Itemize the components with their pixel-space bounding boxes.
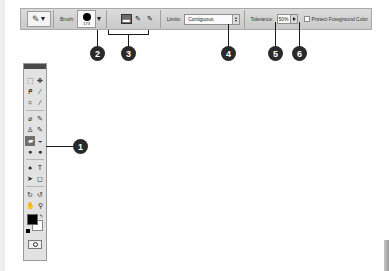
tool-preset-picker[interactable]: ✎ (27, 11, 51, 27)
callout-leader-1 (46, 146, 74, 147)
limits-label: Limits: (167, 16, 181, 22)
tolerance-label: Tolerance: (250, 16, 273, 22)
callout-3: 3 (121, 46, 136, 61)
tool-row: ↻ ↺ (24, 189, 46, 200)
brush-picker[interactable]: 173 (77, 10, 95, 28)
brush-size: 173 (83, 22, 90, 26)
brush-label: Brush: (60, 16, 74, 22)
tool-row: ♠ T (24, 162, 46, 173)
callout-leader-4 (228, 24, 229, 47)
sampling-once-button[interactable]: ✎ (133, 14, 144, 24)
background-eraser-tool-icon[interactable]: ▰ (25, 136, 35, 146)
sampling-background-swatch-button[interactable]: ✎ (145, 14, 156, 24)
sampling-continuous-button[interactable]: ▬ (121, 14, 132, 24)
divider (160, 10, 161, 28)
quick-mask-button[interactable] (28, 240, 42, 249)
limits-value: Contiguous (188, 16, 213, 22)
chevron-right-icon (293, 17, 296, 21)
tool-row: ᑭ ⁄ (24, 86, 46, 97)
dodge-tool-icon[interactable]: ● (35, 147, 45, 157)
brush-tip-icon (83, 13, 91, 21)
protect-foreground-label: Protect Foreground Color (312, 16, 368, 22)
callout-4: 4 (221, 46, 236, 61)
3d-rotate-tool-icon[interactable]: ↻ (25, 190, 35, 200)
callout-leader-5 (275, 22, 276, 47)
move-tool-icon[interactable]: ✥ (35, 76, 45, 86)
tool-options-bar: ✎ Brush: 173 ▬ ✎ ✎ Limits: Contiguous To… (20, 8, 372, 30)
sampling-buttons: ▬ ✎ ✎ (119, 11, 158, 27)
sampling-once-icon: ✎ (135, 15, 141, 23)
page-edge (384, 240, 389, 271)
divider (53, 10, 54, 28)
divider (106, 10, 107, 28)
chevron-down-icon[interactable] (97, 17, 101, 21)
tool-row: ▰ ◒ (24, 135, 46, 146)
history-brush-tool-icon[interactable]: ✎ (35, 125, 45, 135)
magic-wand-tool-icon[interactable]: ⁄ (35, 87, 45, 97)
swap-colors-icon[interactable]: ↰ (39, 213, 43, 219)
clone-stamp-tool-icon[interactable]: ♙ (25, 125, 35, 135)
tool-row: ⌀ ✎ (24, 113, 46, 124)
callout-leader-2 (97, 30, 98, 47)
callout-leader-6 (299, 22, 300, 47)
shape-tool-icon[interactable]: ◻ (35, 174, 45, 184)
type-tool-icon[interactable]: T (35, 163, 45, 173)
3d-orbit-tool-icon[interactable]: ↺ (35, 190, 45, 200)
paint-bucket-tool-icon[interactable]: ◒ (35, 136, 45, 146)
tools-panel: ⬚ ✥ ᑭ ⁄ ⌗ ⁄ ⌀ ✎ ♙ ✎ ▰ ◒ ● ● ♠ T ➤ ◻ ↻ ↺ … (23, 63, 47, 261)
hand-tool-icon[interactable]: ✋ (25, 201, 35, 211)
eyedropper-tool-icon[interactable]: ⁄ (35, 98, 45, 108)
background-eraser-icon: ✎ (32, 15, 40, 24)
path-selection-tool-icon[interactable]: ➤ (25, 174, 35, 184)
sampling-continuous-icon: ▬ (123, 16, 130, 23)
healing-brush-tool-icon[interactable]: ⌀ (25, 114, 35, 124)
tool-row: ➤ ◻ (24, 173, 46, 184)
callout-2: 2 (90, 46, 105, 61)
tolerance-slider-button[interactable] (291, 14, 298, 24)
pen-tool-icon[interactable]: ♠ (25, 163, 35, 173)
foreground-color-swatch[interactable] (27, 214, 38, 225)
divider (244, 10, 245, 28)
divider (26, 184, 44, 187)
callout-5: 5 (268, 46, 283, 61)
callout-6: 6 (292, 46, 307, 61)
tool-row: ⬚ ✥ (24, 75, 46, 86)
tool-row: ♙ ✎ (24, 124, 46, 135)
zoom-tool-icon[interactable]: ⚲ (35, 201, 45, 211)
limits-select[interactable]: Contiguous (184, 14, 239, 25)
default-colors-icon[interactable] (26, 229, 30, 233)
divider (26, 108, 44, 111)
chevron-down-icon (41, 17, 45, 21)
callout-1: 1 (73, 139, 88, 154)
tool-row: ✋ ⚲ (24, 200, 46, 211)
divider (26, 157, 44, 160)
sampling-background-swatch-icon: ✎ (147, 15, 153, 23)
tool-row: ● ● (24, 146, 46, 157)
brush-tool-icon[interactable]: ✎ (35, 114, 45, 124)
color-swatches: ↰ (24, 214, 46, 236)
blur-tool-icon[interactable]: ● (25, 147, 35, 157)
marquee-tool-icon[interactable]: ⬚ (25, 76, 35, 86)
select-arrows-icon (232, 15, 239, 24)
left-page-strip (0, 0, 5, 271)
tolerance-input[interactable]: 50% (277, 14, 292, 24)
crop-tool-icon[interactable]: ⌗ (25, 98, 35, 108)
lasso-tool-icon[interactable]: ᑭ (25, 87, 35, 97)
tool-row: ⌗ ⁄ (24, 97, 46, 108)
protect-foreground-checkbox[interactable] (304, 16, 310, 22)
quick-mask-icon (33, 242, 38, 247)
